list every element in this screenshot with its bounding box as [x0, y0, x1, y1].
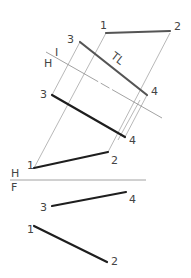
- front-line-1-2: [34, 226, 107, 262]
- aux-line-1-2: [106, 31, 170, 33]
- top-label-3: 3: [40, 88, 47, 101]
- front-label-2: 2: [111, 255, 118, 268]
- top-label-2: 2: [111, 154, 118, 167]
- aux-label-1: 1: [100, 19, 107, 32]
- fold-hf-upper-label: H: [11, 167, 19, 180]
- diagram-canvas: 1 2 3 4 TL I H 3 4 1 2 H F 3 4 1 2: [0, 0, 191, 278]
- front-label-1: 1: [27, 223, 34, 236]
- projection-line-4: [125, 95, 147, 137]
- fold-hf-lower-label: F: [11, 181, 17, 194]
- aux-label-4: 4: [151, 85, 158, 98]
- top-label-1: 1: [27, 159, 34, 172]
- aux-label-3: 3: [67, 33, 74, 46]
- front-label-3: 3: [40, 201, 47, 214]
- fold-h1-upper-label: I: [55, 46, 58, 59]
- top-line-3-4: [52, 95, 125, 137]
- aux-label-2: 2: [174, 20, 181, 33]
- aux-line-3-4-true-length: [80, 42, 147, 95]
- top-line-1-2: [34, 152, 108, 168]
- front-label-4: 4: [129, 193, 136, 206]
- fold-h1-lower-label: H: [44, 57, 52, 70]
- top-label-4: 4: [129, 134, 136, 147]
- front-line-3-4: [52, 192, 126, 206]
